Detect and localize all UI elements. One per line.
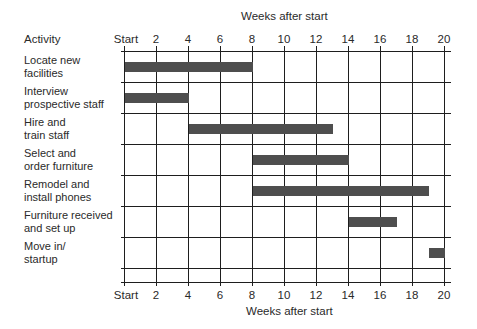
grid-hline	[121, 144, 451, 145]
x-tick-label: 10	[278, 33, 291, 45]
grid-hline	[121, 175, 451, 176]
bottom-axis-title: Weeks after start	[246, 305, 333, 317]
x-tick-label: 16	[374, 289, 387, 301]
grid-hline	[121, 113, 451, 114]
x-tick-label: 2	[153, 33, 159, 45]
x-tick-label: 2	[153, 289, 159, 301]
x-tick-label: 14	[342, 289, 355, 301]
x-tick-label: Start	[114, 289, 138, 301]
x-tick-label: 12	[310, 33, 323, 45]
x-tick-label: 16	[374, 33, 387, 45]
activity-label: Interviewprospective staff	[24, 85, 134, 111]
task-bar	[429, 248, 445, 258]
task-bar	[125, 93, 189, 103]
x-tick-label: 6	[217, 33, 223, 45]
activity-label: Furniture receivedand set up	[24, 209, 134, 235]
x-tick-label: 12	[310, 289, 323, 301]
x-tick-label: 14	[342, 33, 355, 45]
x-tick-label: 10	[278, 289, 291, 301]
grid-hline	[121, 82, 451, 83]
x-tick-label: 4	[185, 33, 191, 45]
grid-hline	[121, 51, 451, 52]
activity-label: Move in/startup	[24, 240, 134, 266]
activity-label: Locate newfacilities	[24, 54, 134, 80]
x-tick-label: 4	[185, 289, 191, 301]
task-bar	[253, 155, 349, 165]
x-tick-label: 20	[438, 289, 451, 301]
x-tick-label: 8	[249, 289, 255, 301]
activity-label: Hire andtrain staff	[24, 116, 134, 142]
grid-hline	[121, 206, 451, 207]
task-bar	[349, 217, 397, 227]
x-tick-label: 18	[406, 33, 419, 45]
top-axis-title: Weeks after start	[241, 10, 328, 22]
x-tick-label: 18	[406, 289, 419, 301]
x-tick-label: 6	[217, 289, 223, 301]
x-tick-label: 20	[438, 33, 451, 45]
activity-label: Select andorder furniture	[24, 147, 134, 173]
grid-hline	[121, 268, 451, 269]
activity-header: Activity	[24, 33, 60, 45]
activity-label: Remodel andinstall phones	[24, 178, 134, 204]
grid-hline	[121, 237, 451, 238]
x-tick-label: Start	[114, 33, 138, 45]
x-tick-label: 8	[249, 33, 255, 45]
task-bar	[253, 186, 429, 196]
grid-hline	[121, 282, 451, 283]
task-bar	[125, 62, 253, 72]
task-bar	[189, 124, 333, 134]
